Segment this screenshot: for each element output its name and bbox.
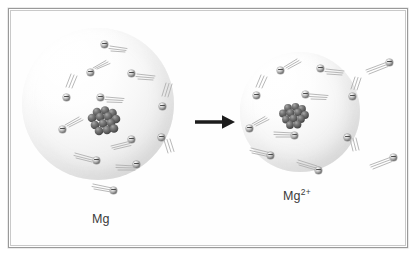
electron-minus-sign xyxy=(268,154,273,155)
nucleon-cluster xyxy=(279,103,309,129)
electron xyxy=(101,41,108,48)
label-mg: Mg xyxy=(92,212,110,226)
electron-minus-sign xyxy=(129,72,134,73)
electron-minus-sign xyxy=(254,94,259,95)
label-mg-ion-base: Mg xyxy=(283,189,301,203)
electron xyxy=(253,92,260,99)
electron-minus-sign xyxy=(247,127,252,128)
electron-minus-sign xyxy=(94,159,99,160)
electron xyxy=(291,132,298,139)
electron xyxy=(246,125,253,132)
electron xyxy=(315,167,322,174)
reaction-arrow xyxy=(194,112,236,132)
electron xyxy=(87,69,94,76)
electron-minus-sign xyxy=(160,105,165,106)
electron-minus-sign xyxy=(60,128,65,129)
electron xyxy=(158,134,165,141)
figure-root: Mg Mg2+ xyxy=(0,0,418,257)
nucleus-mg-ion xyxy=(277,102,311,131)
free-electron-trail xyxy=(370,157,392,166)
label-mg-ion-charge: 2+ xyxy=(301,187,311,197)
electron xyxy=(302,91,309,98)
electron xyxy=(110,187,117,194)
electron xyxy=(128,136,135,143)
electron-minus-sign xyxy=(318,67,323,68)
electron-minus-sign xyxy=(134,163,139,164)
electron xyxy=(93,157,100,164)
electron-minus-sign xyxy=(391,156,396,157)
free-electron xyxy=(386,59,393,66)
electron xyxy=(317,65,324,72)
electron-minus-sign xyxy=(387,61,392,62)
electron xyxy=(133,161,140,168)
electron-minus-sign xyxy=(129,138,134,139)
electron-minus-sign xyxy=(345,136,350,137)
electron-minus-sign xyxy=(278,69,283,70)
electron-minus-sign xyxy=(292,134,297,135)
electron-minus-sign xyxy=(350,95,355,96)
electron-minus-sign xyxy=(102,43,107,44)
electron-minus-sign xyxy=(316,169,321,170)
electron xyxy=(159,103,166,110)
electron xyxy=(63,94,70,101)
electron xyxy=(59,126,66,133)
electron-minus-sign xyxy=(98,96,103,97)
electron xyxy=(349,93,356,100)
electron-minus-sign xyxy=(303,93,308,94)
diagram-stage: Mg Mg2+ xyxy=(0,0,418,257)
nucleon-cluster xyxy=(88,106,121,135)
electron xyxy=(344,134,351,141)
electron xyxy=(277,67,284,74)
electron-minus-sign xyxy=(111,189,116,190)
label-mg-text: Mg xyxy=(92,212,110,226)
nucleus-mg xyxy=(85,105,125,139)
electron xyxy=(267,152,274,159)
free-electron xyxy=(390,154,397,161)
label-mg-ion: Mg2+ xyxy=(283,189,311,203)
electron-minus-sign xyxy=(64,96,69,97)
electron xyxy=(128,70,135,77)
electron xyxy=(97,94,104,101)
electron-minus-sign xyxy=(159,136,164,137)
free-electron-trail xyxy=(366,62,388,71)
electron-minus-sign xyxy=(88,71,93,72)
